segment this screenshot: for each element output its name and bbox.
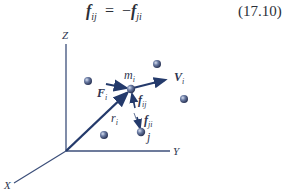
particle bbox=[100, 131, 108, 139]
particle-i-mass-label: mi bbox=[124, 68, 135, 84]
x-axis-label: X bbox=[3, 179, 12, 190]
position-vector-label: ri bbox=[111, 111, 118, 127]
particle-system-diagram: Z Y X ri Fi Vi fij fji mi j bbox=[0, 0, 302, 190]
particle-i bbox=[127, 85, 135, 93]
particle bbox=[84, 77, 92, 85]
force-ij-arrow bbox=[132, 94, 135, 108]
velocity-arrow bbox=[133, 80, 165, 88]
external-force-arrow bbox=[106, 84, 126, 88]
particle-j-label: j bbox=[145, 130, 151, 144]
x-axis bbox=[14, 151, 66, 183]
y-axis-label: Y bbox=[173, 145, 181, 157]
particle bbox=[153, 60, 161, 68]
particle bbox=[180, 95, 188, 103]
external-force-label: Fi bbox=[96, 86, 107, 102]
force-ij-label: fij bbox=[138, 93, 147, 109]
particle-j bbox=[137, 128, 145, 136]
coordinate-axes: Z Y X bbox=[3, 29, 181, 190]
z-axis-label: Z bbox=[62, 29, 69, 41]
velocity-label: Vi bbox=[174, 70, 184, 86]
force-ji-label: fji bbox=[144, 113, 152, 129]
